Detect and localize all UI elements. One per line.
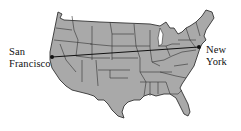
us-map-figure: San Francisco New York [0, 0, 241, 131]
san-francisco-label: San Francisco [9, 46, 51, 70]
new-york-label: New York [206, 44, 227, 68]
san-francisco-label-line1: San [9, 46, 51, 58]
new-york-label-line2: York [206, 56, 227, 68]
us-outline [50, 10, 214, 118]
san-francisco-label-line2: Francisco [9, 58, 51, 70]
new-york-label-line1: New [206, 44, 227, 56]
new-york-marker [197, 45, 201, 49]
